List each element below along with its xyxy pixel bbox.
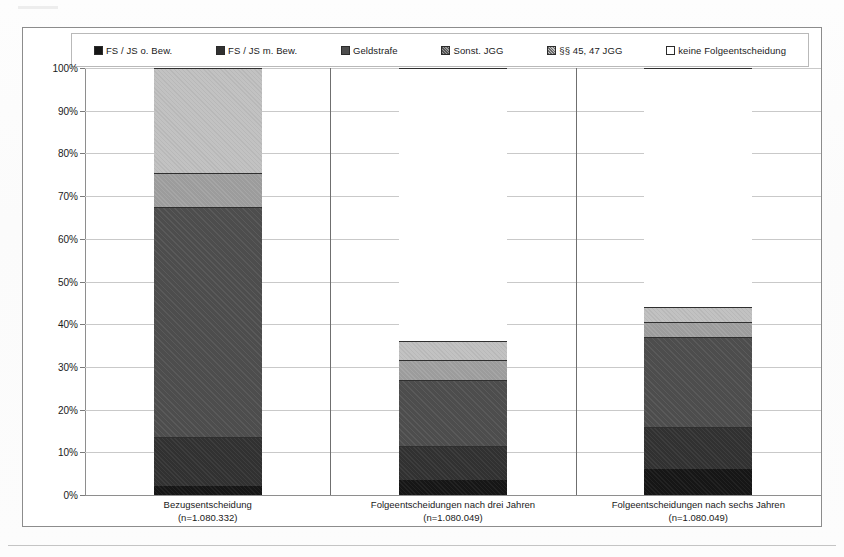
filled-square-icon: [341, 46, 350, 55]
legend-item-label: §§ 45, 47 JGG: [559, 45, 622, 56]
legend-item: FS / JS m. Bew.: [216, 45, 297, 56]
legend-item-label: FS / JS m. Bew.: [228, 45, 297, 56]
y-axis-tick-mark: [80, 111, 85, 112]
bar-segment[interactable]: [154, 68, 262, 173]
gridline: [85, 495, 821, 496]
legend-item-label: Geldstrafe: [353, 45, 398, 56]
bar-segment[interactable]: [399, 360, 507, 379]
stacked-bar[interactable]: [644, 68, 752, 495]
y-axis-tick-mark: [80, 153, 85, 154]
y-axis-tick-label: 20%: [58, 404, 78, 415]
bar-segment[interactable]: [399, 341, 507, 360]
bar-segment[interactable]: [644, 68, 752, 307]
bar-segment[interactable]: [644, 469, 752, 495]
y-axis-tick-mark: [80, 196, 85, 197]
x-axis-category-label: Folgeentscheidungen nach drei Jahren(n=1…: [330, 498, 575, 524]
page-bottom-rule: [8, 545, 836, 546]
category-separator: [576, 68, 577, 495]
chart-legend: FS / JS o. Bew.FS / JS m. Bew.Geldstrafe…: [71, 33, 809, 67]
legend-item-label: FS / JS o. Bew.: [106, 45, 172, 56]
hatched-square-icon: [547, 46, 556, 55]
bar-segment[interactable]: [399, 380, 507, 446]
y-axis-tick-mark: [80, 324, 85, 325]
x-axis-category-count: (n=1.080.332): [85, 511, 330, 524]
legend-item: Geldstrafe: [341, 45, 398, 56]
bar-segment[interactable]: [154, 486, 262, 495]
y-axis-tick-label: 40%: [58, 319, 78, 330]
filled-square-icon: [94, 46, 103, 55]
y-axis-tick-label: 90%: [58, 105, 78, 116]
bar-segment[interactable]: [399, 68, 507, 341]
y-axis-tick-mark: [80, 239, 85, 240]
legend-item: Sonst. JGG: [441, 45, 503, 56]
bar-segment[interactable]: [154, 173, 262, 207]
y-axis-tick-label: 50%: [58, 276, 78, 287]
legend-item: FS / JS o. Bew.: [94, 45, 172, 56]
x-axis-category-count: (n=1.080.049): [330, 511, 575, 524]
legend-item-label: keine Folgeentscheidung: [678, 45, 786, 56]
chart-frame: FS / JS o. Bew.FS / JS m. Bew.Geldstrafe…: [22, 27, 822, 527]
legend-item: keine Folgeentscheidung: [666, 45, 786, 56]
legend-item-label: Sonst. JGG: [453, 45, 503, 56]
y-axis-tick-mark: [80, 410, 85, 411]
y-axis-tick-mark: [80, 452, 85, 453]
y-axis-tick-label: 10%: [58, 447, 78, 458]
x-axis-category-label: Folgeentscheidungen nach sechs Jahren(n=…: [576, 498, 821, 524]
x-axis-category-name: Folgeentscheidungen nach sechs Jahren: [612, 499, 785, 510]
y-axis-tick-mark: [80, 367, 85, 368]
y-axis-tick-label: 80%: [58, 148, 78, 159]
stacked-bar[interactable]: [399, 68, 507, 495]
bar-segment[interactable]: [154, 437, 262, 486]
plot-area: 100%90%80%70%60%50%40%30%20%10%0%: [85, 68, 821, 495]
y-axis-tick-mark: [80, 282, 85, 283]
y-axis-tick-mark: [80, 495, 85, 496]
y-axis-tick-label: 0%: [64, 490, 78, 501]
filled-square-icon: [216, 46, 225, 55]
bar-segment[interactable]: [644, 337, 752, 427]
y-axis-tick-label: 60%: [58, 233, 78, 244]
y-axis-tick-mark: [80, 68, 85, 69]
empty-square-icon: [666, 46, 675, 55]
legend-item: §§ 45, 47 JGG: [547, 45, 622, 56]
bar-segment[interactable]: [644, 322, 752, 337]
bar-segment[interactable]: [644, 307, 752, 322]
y-axis-tick-label: 30%: [58, 361, 78, 372]
x-axis-category-name: Folgeentscheidungen nach drei Jahren: [371, 499, 535, 510]
scan-artifact: [18, 6, 58, 9]
bar-segment[interactable]: [399, 446, 507, 480]
stacked-bar[interactable]: [154, 68, 262, 495]
bar-segment[interactable]: [154, 207, 262, 438]
x-axis-labels: Bezugsentscheidung(n=1.080.332)Folgeents…: [85, 498, 821, 538]
y-axis-tick-label: 100%: [52, 63, 78, 74]
x-axis-category-count: (n=1.080.049): [576, 511, 821, 524]
bar-segment[interactable]: [644, 427, 752, 470]
y-axis-tick-label: 70%: [58, 191, 78, 202]
hatched-square-icon: [441, 46, 450, 55]
category-separator: [330, 68, 331, 495]
x-axis-category-label: Bezugsentscheidung(n=1.080.332): [85, 498, 330, 524]
x-axis-category-name: Bezugsentscheidung: [164, 499, 252, 510]
bar-segment[interactable]: [399, 480, 507, 495]
